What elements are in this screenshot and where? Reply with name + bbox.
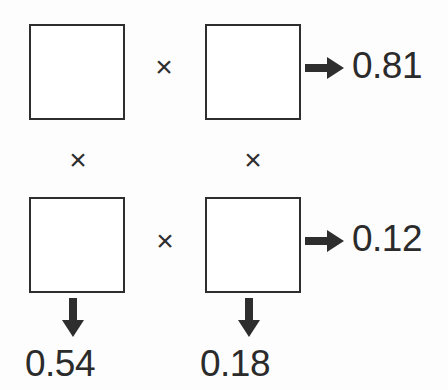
row-product-value-row1: 0.12 [352,220,422,257]
arrow-right-icon-row1 [305,228,345,254]
grid-cell-row1-col0[interactable] [29,197,125,293]
arrow-right-icon-row0 [305,55,345,81]
grid-cell-row0-col1[interactable] [205,24,301,120]
arrow-down-icon-col0 [60,298,86,338]
multiply-symbol-row0: × [149,52,179,82]
multiply-symbol-row1: × [150,226,180,256]
grid-cell-row0-col0[interactable] [29,24,125,120]
product-grid-diagram: × × × × 0.81 0.12 0.54 0.18 [0,0,448,390]
row-product-value-row0: 0.81 [352,47,422,84]
multiply-symbol-col0: × [63,145,93,175]
column-product-value-col1: 0.18 [200,345,270,382]
arrow-down-icon-col1 [236,298,262,338]
multiply-symbol-col1: × [238,145,268,175]
grid-cell-row1-col1[interactable] [205,197,301,293]
column-product-value-col0: 0.54 [25,345,95,382]
